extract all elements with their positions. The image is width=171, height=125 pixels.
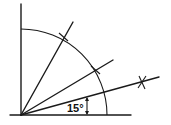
ray-60-degrees bbox=[21, 22, 73, 115]
angle-label: 15° bbox=[67, 102, 84, 114]
ray-15-degrees bbox=[21, 77, 159, 115]
angle-construction-diagram: 15° bbox=[0, 0, 171, 125]
